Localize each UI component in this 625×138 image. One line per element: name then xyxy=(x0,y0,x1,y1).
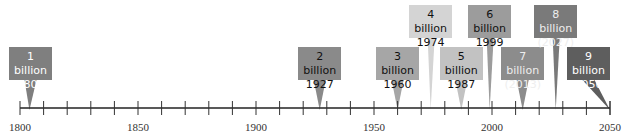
milestone-callout: 3 billion1960 xyxy=(376,47,419,80)
milestone-year: (2050) xyxy=(567,78,610,92)
population-label: 4 billion xyxy=(409,8,452,36)
milestone-callout: 7 billion(2013) xyxy=(501,47,544,80)
population-label: 1 billion xyxy=(9,50,52,78)
population-label: 9 billion xyxy=(567,50,610,78)
axis-label: 1800 xyxy=(9,121,32,133)
population-label: 7 billion xyxy=(501,50,544,78)
population-label: 6 billion xyxy=(468,8,511,36)
milestone-callout: 1 billion1804 xyxy=(9,47,52,80)
axis-label: 2050 xyxy=(599,121,622,133)
population-label: 2 billion xyxy=(298,50,341,78)
milestone-callout: 4 billion1974 xyxy=(409,5,452,38)
population-label: 5 billion xyxy=(440,50,483,78)
axis-label: 1950 xyxy=(363,121,386,133)
milestone-year: 1987 xyxy=(440,78,483,92)
milestone-callout: 8 billion(2027) xyxy=(534,5,577,38)
population-label: 8 billion xyxy=(534,8,577,36)
milestone-callout: 6 billion1999 xyxy=(468,5,511,38)
axis-labels: 180018501900195020002050 xyxy=(9,121,622,133)
milestone-year: (2013) xyxy=(501,78,544,92)
milestone-callout: 2 billion1927 xyxy=(298,47,341,80)
milestone-year: 1804 xyxy=(9,78,52,92)
milestone-year: 1927 xyxy=(298,78,341,92)
milestone-year: 1960 xyxy=(376,78,419,92)
milestone-callout: 9 billion(2050) xyxy=(567,47,610,80)
axis-label: 1850 xyxy=(127,121,150,133)
population-label: 3 billion xyxy=(376,50,419,78)
axis-label: 1900 xyxy=(245,121,268,133)
axis-label: 2000 xyxy=(481,121,504,133)
milestone-callout: 5 billion1987 xyxy=(440,47,483,80)
